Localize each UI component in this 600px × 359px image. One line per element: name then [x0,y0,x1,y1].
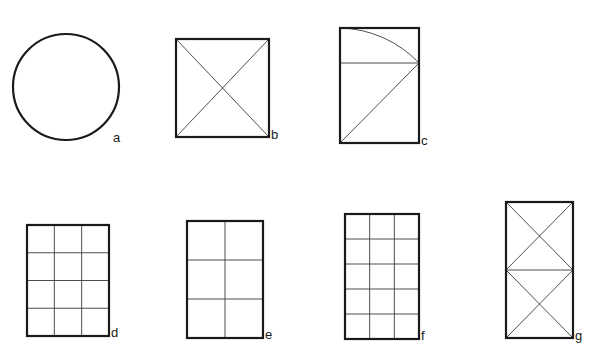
figure-g [506,202,573,338]
outline-rect [345,214,419,339]
figure-label-d: d [111,326,118,339]
diagonal-line [340,63,419,143]
outline-rect [340,28,419,143]
arc-line [340,28,419,63]
figure-label-g: g [575,329,582,342]
figure-d [27,225,109,336]
figure-label-e: e [265,328,272,341]
figure-e [187,221,263,338]
figure-label-c: c [421,134,428,147]
figure-b [176,39,269,137]
figure-c [340,28,419,143]
figure-label-b: b [271,128,278,141]
figure-label-f: f [421,329,425,342]
figure-label-a: a [113,131,120,144]
circle-shape [13,34,119,140]
geometric-figures-canvas [0,0,600,359]
figure-a [13,34,119,140]
figure-f [345,214,419,339]
